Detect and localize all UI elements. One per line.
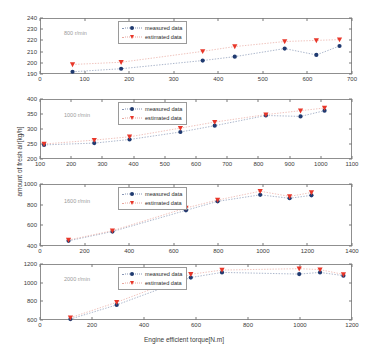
y-tick-label: 800 [27, 202, 37, 208]
legend-item: measured data [122, 24, 182, 32]
data-point [337, 44, 341, 48]
y-tick-label: 1200 [24, 261, 37, 267]
data-point [188, 272, 193, 277]
y-tick-label: 190 [27, 71, 37, 77]
x-tick-label: 200 [124, 76, 134, 82]
panel-annotation: 1000 r/min [64, 112, 90, 118]
x-tick-label: 800 [253, 161, 263, 167]
x-tick-label: 0 [38, 322, 41, 328]
legend-label: estimated data [145, 34, 182, 41]
x-tick-label: 1000 [293, 322, 306, 328]
x-tick-label: 200 [80, 248, 90, 254]
x-tick-label: 1200 [301, 248, 314, 254]
figure: amount of fresh air[kg/h] Engine efficie… [0, 0, 368, 356]
x-tick-label: 100 [35, 161, 45, 167]
x-tick-label: 400 [139, 322, 149, 328]
legend-label: measured data [145, 25, 182, 32]
legend-item: estimated data [122, 279, 182, 287]
x-tick-label: 700 [347, 76, 357, 82]
legend: measured dataestimated data [118, 21, 187, 44]
data-point [233, 55, 237, 59]
panel-2000-rpm: 600800100012000200400600800100012002000 … [40, 264, 352, 320]
legend: measured dataestimated data [118, 267, 187, 290]
x-tick-label: 800 [243, 322, 253, 328]
data-point [297, 272, 301, 276]
x-tick-label: 300 [97, 161, 107, 167]
data-point [232, 44, 237, 49]
panel-1000-rpm: 2002503003504001002003004005006007008009… [40, 99, 352, 159]
legend-label: estimated data [145, 200, 182, 207]
series-line [69, 191, 312, 240]
legend: measured dataestimated data [118, 102, 187, 125]
y-tick-label: 1000 [24, 280, 37, 286]
y-tick-label: 300 [27, 126, 37, 132]
panel-1600-rpm: 4006008001000020040060080010001200140016… [40, 184, 352, 246]
series-line [73, 46, 340, 72]
y-tick-label: 600 [27, 222, 37, 228]
x-tick-label: 600 [302, 76, 312, 82]
y-tick-label: 400 [27, 96, 37, 102]
data-point [212, 120, 217, 125]
data-series-layer [40, 99, 352, 159]
x-tick-label: 500 [258, 76, 268, 82]
data-series-layer [40, 18, 352, 74]
y-axis-label: amount of fresh air[kg/h] [16, 102, 23, 222]
panel-annotation: 800 r/min [64, 30, 87, 36]
y-tick-label: 800 [27, 298, 37, 304]
y-tick-label: 600 [27, 317, 37, 323]
x-tick-label: 800 [213, 248, 223, 254]
x-tick-label: 1400 [345, 248, 358, 254]
x-tick-label: 500 [160, 161, 170, 167]
data-point [298, 114, 302, 118]
data-point [119, 60, 124, 65]
x-tick-label: 400 [129, 161, 139, 167]
x-tick-label: 600 [191, 161, 201, 167]
legend-item: measured data [122, 105, 182, 113]
legend-item: measured data [122, 270, 182, 278]
y-tick-label: 220 [27, 37, 37, 43]
legend-label: measured data [145, 106, 182, 113]
x-tick-label: 1000 [314, 161, 327, 167]
series-line [70, 269, 343, 318]
x-tick-label: 600 [191, 322, 201, 328]
legend-item: estimated data [122, 199, 182, 207]
panel-annotation: 2000 r/min [64, 276, 90, 282]
series-line [70, 272, 343, 319]
legend-marker-circle [122, 191, 142, 198]
y-tick-label: 350 [27, 111, 37, 117]
legend-marker-circle [122, 271, 142, 278]
legend-label: measured data [145, 191, 182, 198]
y-tick-label: 210 [27, 49, 37, 55]
legend-marker-circle [122, 25, 142, 32]
data-point [201, 58, 205, 62]
data-series-layer [40, 264, 352, 320]
y-tick-label: 1000 [24, 181, 37, 187]
y-tick-label: 400 [27, 243, 37, 249]
x-tick-label: 400 [213, 76, 223, 82]
x-tick-label: 0 [38, 248, 41, 254]
x-tick-label: 1000 [256, 248, 269, 254]
y-tick-label: 230 [27, 26, 37, 32]
x-tick-label: 100 [80, 76, 90, 82]
legend-label: measured data [145, 271, 182, 278]
legend: measured dataestimated data [118, 187, 187, 210]
x-tick-label: 700 [222, 161, 232, 167]
data-point [283, 46, 287, 50]
legend-item: measured data [122, 190, 182, 198]
data-point [298, 108, 303, 113]
x-tick-label: 1100 [346, 161, 359, 167]
panel-annotation: 1600 r/min [64, 198, 90, 204]
legend-marker-triangle-down [122, 115, 142, 122]
legend-label: estimated data [145, 280, 182, 287]
panel-800-rpm: 1902002102202302400100200300400500600700… [40, 18, 352, 74]
data-point [70, 70, 74, 74]
legend-marker-circle [122, 106, 142, 113]
legend-marker-triangle-down [122, 200, 142, 207]
y-tick-label: 200 [27, 60, 37, 66]
data-series-layer [40, 184, 352, 246]
legend-marker-triangle-down [122, 280, 142, 287]
x-tick-label: 400 [124, 248, 134, 254]
x-tick-label: 0 [38, 76, 41, 82]
y-tick-label: 240 [27, 15, 37, 21]
legend-label: estimated data [145, 115, 182, 122]
